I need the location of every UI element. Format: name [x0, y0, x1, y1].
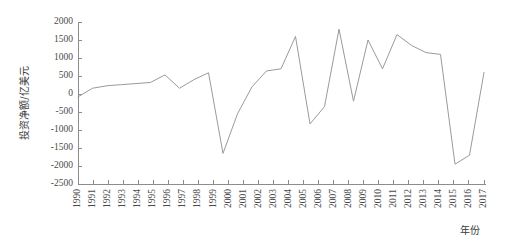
x-axis-tick-label: 2000	[223, 189, 233, 208]
x-axis-tick-label: 1993	[117, 189, 127, 208]
y-axis-tick-label: -1500	[51, 142, 73, 152]
line-chart: 2000150010005000-500-1000-1500-2000-2500…	[0, 0, 510, 240]
chart-container: 2000150010005000-500-1000-1500-2000-2500…	[0, 0, 510, 240]
x-axis-tick-label: 2007	[328, 189, 338, 208]
x-axis-title: 年份	[460, 224, 480, 236]
x-axis-tick-label: 2009	[358, 189, 368, 208]
x-axis-tick-label: 1990	[72, 189, 82, 208]
y-axis-tick-label: 2000	[54, 16, 73, 26]
x-axis-tick-label: 2017	[478, 189, 488, 208]
x-axis-tick-label: 2004	[283, 189, 293, 208]
x-axis-tick-label: 2008	[343, 189, 353, 208]
x-axis-tick-label: 2002	[253, 189, 263, 208]
x-axis-tick-label: 2016	[463, 189, 473, 208]
x-axis-tick-label: 1995	[147, 189, 157, 208]
x-axis-tick-label: 2015	[448, 189, 458, 208]
x-axis-tick-label: 1998	[192, 189, 202, 208]
y-axis-tick-label: 500	[59, 70, 74, 80]
data-series	[78, 29, 484, 164]
x-axis-tick-label: 2010	[373, 189, 383, 208]
x-axis-tick-label: 2011	[388, 189, 398, 208]
series-line-investment	[78, 29, 484, 164]
y-axis-tick-label: 1000	[54, 52, 73, 62]
x-axis-tick-label: 1994	[132, 189, 142, 208]
x-axis-tick-label: 2013	[418, 189, 428, 208]
x-axis-tick-label: 1996	[162, 189, 172, 208]
x-axis-tick-label: 2003	[268, 189, 278, 208]
x-axis-tick-label: 2001	[238, 189, 248, 208]
x-axis-tick-label: 2005	[298, 189, 308, 208]
y-axis-tick-label: 0	[68, 88, 73, 98]
y-axis: 2000150010005000-500-1000-1500-2000-2500	[51, 16, 82, 188]
y-axis-tick-label: -2000	[51, 160, 73, 170]
x-axis-tick-label: 2006	[313, 189, 323, 208]
x-axis-tick-label: 1999	[208, 189, 218, 208]
y-axis-tick-label: -500	[56, 106, 74, 116]
x-axis-tick-label: 1992	[102, 189, 112, 208]
y-axis-tick-label: 1500	[54, 34, 73, 44]
x-axis-tick-label: 2012	[403, 189, 413, 208]
x-axis: 1990199119921993199419951996199719981999…	[72, 180, 488, 208]
x-axis-tick-label: 2014	[433, 189, 443, 208]
y-axis-tick-label: -1000	[51, 124, 73, 134]
y-axis-title: 投资净额/亿美元	[18, 66, 30, 139]
y-axis-tick-label: -2500	[51, 178, 73, 188]
x-axis-tick-label: 1997	[177, 189, 187, 208]
x-axis-tick-label: 1991	[87, 189, 97, 208]
